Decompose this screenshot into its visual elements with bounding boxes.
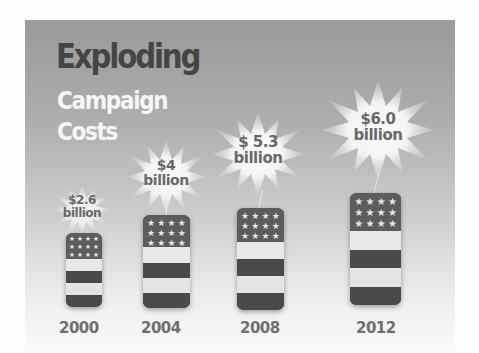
burst-unit-2008: billion <box>212 151 304 167</box>
burst-amount-2000: $2.6 <box>52 194 112 207</box>
burst-unit-2004: billion <box>126 173 206 188</box>
burst-2000: $2.6 billion <box>52 182 112 238</box>
firecracker-bar-2004: ★★★★ ★★★★ ★★★★ <box>143 215 190 308</box>
stars-icon: ★★★★ ★★★★ ★★★★ <box>143 215 190 247</box>
burst-2008: $ 5.3 billion <box>212 112 304 196</box>
stars-icon: ★★★★ ★★★★ ★★★★ <box>66 233 102 259</box>
year-label-2012: 2012 <box>356 319 396 337</box>
stars-icon: ★★★★ ★★★★ ★★★★ <box>237 208 284 242</box>
burst-amount-2004: $4 <box>126 158 206 173</box>
title-line-1: Exploding <box>56 36 199 76</box>
burst-unit-2000: billion <box>52 207 112 220</box>
year-label-2008: 2008 <box>240 319 280 337</box>
firecracker-bar-2008: ★★★★ ★★★★ ★★★★ <box>237 208 284 310</box>
firecracker-bar-2000: ★★★★ ★★★★ ★★★★ <box>66 233 102 307</box>
burst-2004: $4 billion <box>126 140 206 214</box>
title-line-2: Campaign <box>57 86 167 115</box>
burst-unit-2012: billion <box>322 128 434 144</box>
year-label-2004: 2004 <box>141 319 181 337</box>
stars-icon: ★★★★ ★★★★ ★★★★ <box>350 193 401 231</box>
year-label-2000: 2000 <box>59 319 99 337</box>
burst-2012: $6.0 billion <box>322 80 434 180</box>
firecracker-bar-2012: ★★★★ ★★★★ ★★★★ <box>350 193 401 305</box>
title-line-3: Costs <box>57 117 117 146</box>
